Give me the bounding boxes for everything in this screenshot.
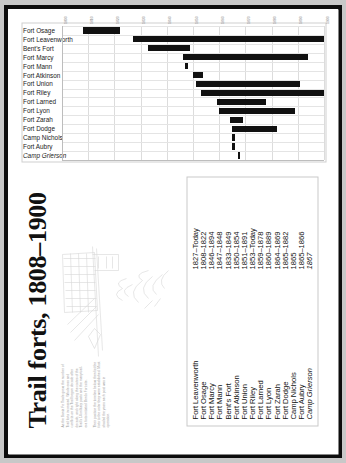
chart-plot-area: 1800181018201830184018501860187018801890…: [61, 26, 323, 160]
chart-bar: [231, 143, 234, 149]
legend-row: Fort Mann1847–1848: [215, 183, 223, 419]
chart-bar: [82, 27, 119, 33]
chart-gridline-vertical: [87, 26, 88, 160]
chart-gridline-horizontal: [61, 133, 323, 134]
legend-fort-name: Fort Lyon: [264, 269, 272, 419]
page-border: Trail forts, 1808–1900 As the Santa Fe T…: [4, 5, 342, 458]
chart-xaxis-tick-label: 1890: [298, 16, 302, 24]
chart-gridline-horizontal: [61, 142, 323, 143]
legend-fort-dates: 1867: [305, 183, 313, 269]
page-surface: Trail forts, 1808–1900 As the Santa Fe T…: [8, 9, 338, 454]
chart-category-label: Fort Aubry: [22, 143, 51, 150]
chart-bar: [184, 63, 187, 69]
chart-category-label: Fort Osage: [22, 27, 54, 34]
chart-xaxis-tick-label: 1800: [63, 16, 67, 24]
poster-page: Trail forts, 1808–1900 As the Santa Fe T…: [0, 0, 346, 463]
rotated-content-wrapper: Trail forts, 1808–1900 As the Santa Fe T…: [8, 9, 338, 454]
chart-xaxis-tick-label: 1810: [89, 16, 93, 24]
poster-canvas: Trail forts, 1808–1900 As the Santa Fe T…: [8, 9, 338, 454]
chart-bar: [237, 152, 240, 158]
legend-row: Fort Larned1859–1878: [256, 183, 264, 419]
legend-fort-dates: 1864–1869: [273, 183, 281, 269]
legend-row: Fort Union1851–1891: [240, 183, 248, 419]
chart-xaxis-tick-label: 1870: [246, 16, 250, 24]
chart-gridline-vertical: [140, 26, 141, 160]
forts-legend-table: Fort Leavenworth1827–TodayFort Osage1808…: [191, 183, 313, 419]
chart-xaxis-tick-label: 1830: [141, 16, 145, 24]
chart-xaxis-tick-label: 1840: [167, 16, 171, 24]
chart-bar: [182, 54, 308, 60]
intro-paragraph-line: As the Santa Fe Trade grew, the number o…: [60, 361, 88, 427]
chart-category-label: Camp Grierson: [22, 152, 65, 159]
legend-fort-name: Fort Mann: [215, 269, 223, 419]
chart-bar: [231, 134, 234, 140]
chart-bar: [216, 99, 266, 105]
chart-category-label: Fort Larned: [22, 98, 55, 105]
chart-category-label: Fort Atkinson: [22, 72, 59, 79]
forts-timeline-chart: 1800181018201830184018501860187018801890…: [21, 22, 326, 162]
chart-bar: [229, 117, 242, 123]
chart-gridline-horizontal: [61, 124, 323, 125]
chart-category-label: Fort Zarah: [22, 116, 52, 123]
chart-category-label: Fort Riley: [22, 89, 49, 96]
chart-xaxis-tick-label: 1850: [194, 16, 198, 24]
chart-bar: [200, 90, 323, 96]
chart-gridline-horizontal: [61, 151, 323, 152]
chart-gridline-horizontal: [61, 115, 323, 116]
legend-fort-dates: 1847–1848: [215, 183, 223, 269]
chart-axis-bottom: [61, 160, 323, 161]
chart-rotation-layer: 1800181018201830184018501860187018801890…: [21, 22, 326, 162]
chart-bar: [218, 108, 294, 114]
chart-gridline-vertical: [192, 26, 193, 160]
legend-row: Fort Zarah1864–1869: [273, 183, 281, 419]
legend-fort-name: Camp Grierson: [305, 269, 313, 419]
chart-category-label: Fort Mann: [22, 63, 51, 70]
legend-row: Fort Lyon1860–1889: [264, 183, 272, 419]
chart-category-label: Fort Dodge: [22, 125, 54, 132]
chart-gridline-horizontal: [61, 62, 323, 63]
chart-xaxis-tick-label: 1900: [325, 16, 329, 24]
legend-fort-name: Fort Zarah: [273, 269, 281, 419]
forts-legend-box: Fort Leavenworth1827–TodayFort Osage1808…: [186, 176, 318, 426]
chart-bar: [147, 45, 189, 51]
chart-bar: [192, 72, 202, 78]
legend-row: Camp Grierson1867: [305, 183, 313, 419]
chart-category-label: Fort Union: [22, 80, 52, 87]
chart-category-label: Bent's Fort: [22, 45, 53, 52]
legend-row: Fort Marcy1846–1894: [207, 183, 215, 419]
chart-category-label: Fort Marcy: [22, 54, 53, 61]
legend-fort-dates: 1860–1889: [264, 183, 272, 269]
chart-bar: [231, 126, 276, 132]
page-title: Trail forts, 1808–1900: [22, 178, 52, 428]
chart-bar: [195, 81, 300, 87]
chart-bar: [132, 36, 323, 42]
chart-xaxis-tick-label: 1860: [220, 16, 224, 24]
fort-sketch-illustration: [52, 242, 172, 358]
chart-xaxis-tick-label: 1880: [272, 16, 276, 24]
chart-category-label: Fort Lyon: [22, 107, 49, 114]
chart-axis-left: [61, 26, 62, 160]
chart-gridline-vertical: [113, 26, 114, 160]
chart-category-label: Camp Nichols: [22, 134, 62, 141]
chart-gridline-horizontal: [61, 44, 323, 45]
chart-gridline-horizontal: [61, 97, 323, 98]
chart-category-label: Fort Leavenworth: [22, 36, 72, 43]
intro-paragraph-line: Their position the timeline below, then …: [92, 361, 110, 427]
intro-paragraph: As the Santa Fe Trade grew, the number o…: [60, 361, 114, 427]
chart-gridline-horizontal: [61, 71, 323, 72]
chart-xaxis-tick-label: 1820: [115, 16, 119, 24]
